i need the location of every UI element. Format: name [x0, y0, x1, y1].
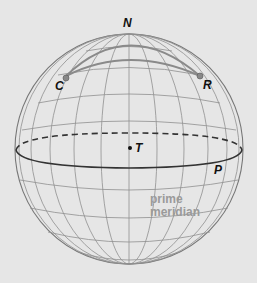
latitude-arc	[66, 60, 200, 76]
label-r: R	[203, 78, 212, 92]
globe-diagram	[0, 0, 257, 283]
label-c: C	[55, 79, 64, 93]
label-p: P	[214, 163, 222, 177]
point-t-marker	[128, 146, 132, 150]
prime-meridian-label: prime meridian	[150, 193, 200, 219]
label-n: N	[123, 16, 132, 30]
label-t: T	[135, 141, 142, 155]
prime-meridian-line2: meridian	[150, 206, 200, 219]
